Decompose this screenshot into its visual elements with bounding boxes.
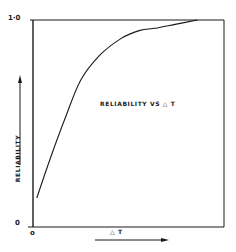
- y-tick-label-top: 1·0: [8, 14, 20, 22]
- y-tick-label-zero: 0: [15, 219, 20, 227]
- y-axis-label: RELIABILITY: [14, 135, 21, 182]
- x-axis-label: △ T: [110, 228, 123, 235]
- x-tick-label-origin: o: [30, 229, 35, 237]
- reliability-curve: [37, 20, 198, 198]
- x-axis-arrow-head-icon: [161, 238, 169, 242]
- y-axis-arrow-head-icon: [18, 75, 22, 83]
- reliability-chart: [0, 0, 236, 252]
- chart-title: RELIABILITY VS △ T: [100, 100, 175, 107]
